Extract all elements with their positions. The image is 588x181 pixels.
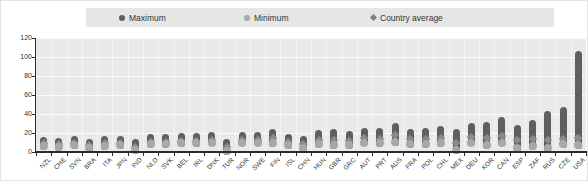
x-tick-mark-29 bbox=[479, 153, 480, 156]
x-tick-label-ISL: ISL bbox=[284, 156, 296, 168]
y-tick-mark-100 bbox=[32, 57, 35, 58]
minimum-marker-NOR bbox=[238, 139, 246, 147]
x-tick-mark-23 bbox=[387, 153, 388, 156]
x-tick-mark-11 bbox=[204, 153, 205, 156]
gridline-col-33 bbox=[540, 38, 541, 152]
x-tick-label-NLD: NLD bbox=[144, 156, 158, 170]
gridline-col-17 bbox=[296, 38, 297, 152]
minimum-marker-BEL bbox=[177, 139, 185, 147]
chart-panel: Maximum Minimum Country average 02040608… bbox=[0, 0, 588, 181]
x-tick-mark-21 bbox=[357, 153, 358, 156]
minimum-marker-POL bbox=[422, 140, 430, 148]
x-tick-label-IRL: IRL bbox=[192, 156, 204, 168]
x-tick-label-RUS: RUS bbox=[541, 156, 556, 171]
legend: Maximum Minimum Country average bbox=[86, 8, 554, 27]
y-tick-mark-20 bbox=[32, 133, 35, 134]
x-tick-label-DEU: DEU bbox=[465, 156, 480, 171]
x-tick-label-GBR: GBR bbox=[327, 156, 342, 171]
minimum-marker-DNK bbox=[208, 139, 216, 147]
x-tick-mark-10 bbox=[189, 153, 190, 156]
minimum-marker-IRL bbox=[192, 139, 200, 147]
x-tick-label-CZE: CZE bbox=[557, 156, 571, 170]
x-tick-label-ZAF: ZAF bbox=[527, 156, 541, 170]
minimum-marker-CHL bbox=[437, 139, 445, 147]
gridline-col-30 bbox=[494, 38, 495, 152]
x-tick-mark-16 bbox=[280, 153, 281, 156]
x-tick-mark-14 bbox=[250, 153, 251, 156]
gridline-col-4 bbox=[97, 38, 98, 152]
y-tick-label-100: 100 bbox=[4, 53, 32, 61]
minimum-marker-ISL bbox=[284, 141, 292, 149]
minimum-marker-FIN bbox=[269, 139, 277, 147]
y-tick-mark-0 bbox=[32, 152, 35, 153]
y-tick-mark-40 bbox=[32, 114, 35, 115]
gridline-col-8 bbox=[158, 38, 159, 152]
minimum-marker-ITA bbox=[101, 142, 109, 150]
x-tick-mark-33 bbox=[540, 153, 541, 156]
minimum-marker-GRC bbox=[345, 141, 353, 149]
x-tick-label-GRC: GRC bbox=[342, 156, 357, 171]
minimum-marker-KOR bbox=[483, 141, 491, 149]
gridline-col-11 bbox=[204, 38, 205, 152]
x-tick-label-MEX: MEX bbox=[449, 156, 464, 171]
x-tick-mark-34 bbox=[555, 153, 556, 156]
x-tick-mark-15 bbox=[265, 153, 266, 156]
minimum-marker-NLD bbox=[147, 140, 155, 148]
x-tick-label-AUT: AUT bbox=[358, 156, 372, 170]
x-tick-label-IND: IND bbox=[130, 156, 143, 169]
gridline-col-22 bbox=[372, 38, 373, 152]
minimum-marker-AUS bbox=[391, 138, 399, 146]
legend-label-maximum: Maximum bbox=[129, 13, 166, 23]
gridline-col-14 bbox=[250, 38, 251, 152]
gridline-col-9 bbox=[174, 38, 175, 152]
gridline-col-2 bbox=[67, 38, 68, 152]
y-tick-label-20: 20 bbox=[4, 129, 32, 137]
x-tick-mark-9 bbox=[174, 153, 175, 156]
gridline-col-19 bbox=[326, 38, 327, 152]
x-tick-mark-27 bbox=[449, 153, 450, 156]
gridline-col-26 bbox=[433, 38, 434, 152]
gridline-col-31 bbox=[510, 38, 511, 152]
y-tick-label-60: 60 bbox=[4, 91, 32, 99]
x-tick-label-POL: POL bbox=[419, 156, 433, 170]
gridline-col-24 bbox=[403, 38, 404, 152]
x-tick-label-ESP: ESP bbox=[511, 156, 525, 170]
x-tick-mark-19 bbox=[326, 153, 327, 156]
legend-label-country-average: Country average bbox=[380, 13, 443, 23]
y-tick-mark-120 bbox=[32, 38, 35, 39]
x-tick-label-PRT: PRT bbox=[374, 156, 388, 170]
plot-area bbox=[36, 38, 586, 152]
x-tick-label-CHN: CHN bbox=[296, 156, 311, 171]
minimum-marker-HUN bbox=[315, 140, 323, 148]
gridline-col-35 bbox=[571, 38, 572, 152]
minimum-marker-FRA bbox=[406, 140, 414, 148]
minimum-marker-DEU bbox=[467, 139, 475, 147]
gridline-col-18 bbox=[311, 38, 312, 152]
minimum-marker-JPN bbox=[116, 141, 124, 149]
gridline-col-10 bbox=[189, 38, 190, 152]
x-tick-label-CAN: CAN bbox=[495, 156, 510, 171]
x-tick-label-JPN: JPN bbox=[114, 156, 128, 170]
y-tick-label-80: 80 bbox=[4, 72, 32, 80]
x-tick-mark-28 bbox=[464, 153, 465, 156]
gridline-col-27 bbox=[449, 38, 450, 152]
x-tick-label-HUN: HUN bbox=[312, 156, 327, 171]
y-tick-label-120: 120 bbox=[4, 34, 32, 42]
minimum-marker-CZE bbox=[559, 140, 567, 148]
x-tick-mark-4 bbox=[97, 153, 98, 156]
x-tick-mark-8 bbox=[158, 153, 159, 156]
y-tick-mark-80 bbox=[32, 76, 35, 77]
x-tick-mark-2 bbox=[67, 153, 68, 156]
y-tick-label-0: 0 bbox=[4, 148, 32, 156]
x-tick-label-CHL: CHL bbox=[435, 156, 449, 170]
x-tick-mark-13 bbox=[235, 153, 236, 156]
x-tick-mark-7 bbox=[143, 153, 144, 156]
x-tick-mark-5 bbox=[112, 153, 113, 156]
maximum-circle-icon bbox=[119, 15, 125, 21]
x-tick-label-NOR: NOR bbox=[235, 156, 250, 171]
minimum-marker-PRT bbox=[376, 139, 384, 147]
x-tick-mark-30 bbox=[494, 153, 495, 156]
gridline-col-6 bbox=[128, 38, 129, 152]
x-tick-mark-25 bbox=[418, 153, 419, 156]
gridline-col-25 bbox=[418, 38, 419, 152]
